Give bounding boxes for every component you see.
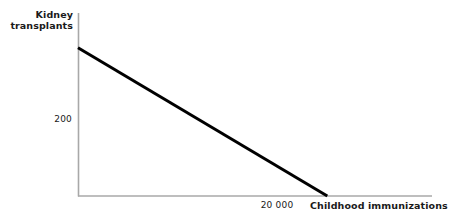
chart-plot-area: [0, 0, 449, 220]
x-axis-label: Childhood immunizations: [310, 200, 448, 211]
chart-container: Kidney transplants 200 20 000 Childhood …: [0, 0, 449, 220]
y-axis-label-line-2: transplants: [0, 20, 73, 31]
y-axis-tick-label-200: 200: [30, 114, 72, 124]
y-axis-label-line-1: Kidney: [0, 9, 73, 20]
ppf-line-series: [78, 48, 327, 196]
y-axis-label: Kidney transplants: [0, 9, 73, 31]
x-axis-tick-label-20000: 20 000: [248, 200, 306, 210]
